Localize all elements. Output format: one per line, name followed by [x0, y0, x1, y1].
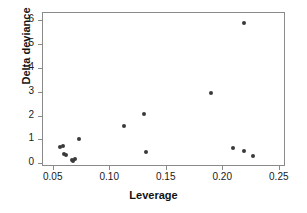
x-axis-title: Leverage: [0, 189, 307, 201]
plot-frame: [42, 12, 285, 166]
data-point: [64, 153, 68, 157]
data-point: [73, 157, 77, 161]
x-axis-tick: [279, 166, 280, 170]
y-axis-title: Delta deviance: [20, 0, 32, 116]
data-points-layer: [43, 13, 284, 165]
y-axis-tick: [38, 44, 42, 45]
x-axis-tick-label: 0.10: [89, 171, 129, 182]
data-point: [209, 91, 213, 95]
x-axis-tick-label: 0.20: [202, 171, 242, 182]
data-point: [142, 112, 146, 116]
data-point: [122, 124, 126, 128]
x-axis-tick-label: 0.15: [146, 171, 186, 182]
y-axis-tick: [38, 139, 42, 140]
x-axis-tick: [109, 166, 110, 170]
x-axis-tick: [166, 166, 167, 170]
data-point: [77, 137, 81, 141]
y-axis-tick-label: 0: [20, 156, 34, 167]
y-axis-tick: [38, 116, 42, 117]
y-axis-tick: [38, 163, 42, 164]
data-point: [61, 144, 65, 148]
x-axis-tick-label: 0.05: [33, 171, 73, 182]
y-axis-tick: [38, 68, 42, 69]
data-point: [242, 149, 246, 153]
data-point: [242, 21, 246, 25]
x-axis-tick: [53, 166, 54, 170]
y-axis-tick-label: 1: [20, 132, 34, 143]
data-point: [231, 146, 235, 150]
data-point: [144, 150, 148, 154]
x-axis-tick-label: 0.25: [259, 171, 299, 182]
scatter-plot-figure: 0.050.100.150.200.250123456 Leverage Del…: [0, 0, 307, 213]
data-point: [251, 154, 255, 158]
y-axis-tick: [38, 20, 42, 21]
y-axis-tick: [38, 92, 42, 93]
x-axis-tick: [222, 166, 223, 170]
